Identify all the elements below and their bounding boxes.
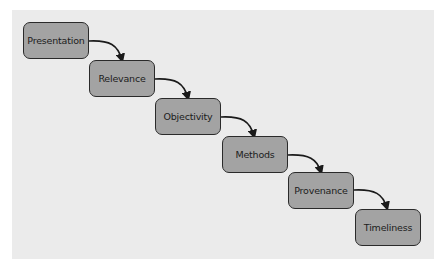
arrow-provenance-to-timeliness (354, 190, 387, 208)
step-presentation: Presentation (23, 22, 89, 59)
arrow-presentation-to-relevance (89, 41, 122, 60)
arrow-relevance-to-objectivity (155, 79, 188, 98)
step-objectivity: Objectivity (155, 98, 221, 135)
step-timeliness: Timeliness (355, 209, 421, 246)
step-relevance: Relevance (89, 60, 155, 97)
arrow-objectivity-to-methods (221, 117, 254, 136)
step-provenance: Provenance (288, 172, 354, 209)
step-methods: Methods (222, 136, 288, 173)
arrow-methods-to-provenance (288, 155, 321, 172)
